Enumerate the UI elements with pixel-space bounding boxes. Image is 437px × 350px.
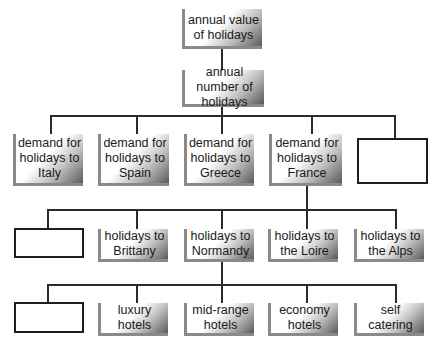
node-label: holidays to the Loire bbox=[271, 229, 338, 259]
node-annual-value: annual value of holidays bbox=[182, 9, 262, 49]
connector-l3-greece bbox=[221, 115, 223, 134]
connector-l3-france bbox=[311, 115, 313, 134]
node-midrange-hotels: mid-range hotels bbox=[184, 303, 254, 336]
node-label: demand for holidays to France bbox=[272, 136, 342, 181]
node-label: demand for holidays to Spain bbox=[101, 136, 169, 181]
connector-l4-loire bbox=[306, 209, 308, 229]
connector-normandy-down bbox=[221, 262, 223, 285]
node-alps: holidays to the Alps bbox=[354, 229, 424, 262]
connector-l3-empty bbox=[394, 115, 396, 138]
node-loire: holidays to the Loire bbox=[268, 229, 338, 262]
node-label: luxury hotels bbox=[101, 303, 168, 333]
node-label: demand for holidays to Italy bbox=[16, 136, 83, 181]
node-demand-italy: demand for holidays to Italy bbox=[13, 134, 83, 186]
connector-l5-midrange bbox=[221, 284, 223, 303]
node-demand-spain: demand for holidays to Spain bbox=[98, 134, 169, 186]
node-self-catering: self catering bbox=[354, 303, 424, 336]
node-label: mid-range hotels bbox=[187, 303, 254, 333]
node-label: holidays to the Alps bbox=[357, 229, 424, 259]
connector-france-down bbox=[306, 186, 308, 210]
node-economy-hotels: economy hotels bbox=[268, 303, 338, 336]
node-normandy: holidays to Normandy bbox=[184, 229, 254, 262]
connector-l4-brittany bbox=[136, 209, 138, 229]
connector-l4-alps bbox=[395, 209, 397, 229]
node-label: annual number of holidays bbox=[185, 65, 264, 110]
node-brittany: holidays to Brittany bbox=[98, 229, 168, 262]
node-demand-greece: demand for holidays to Greece bbox=[184, 134, 254, 186]
node-label: holidays to Brittany bbox=[101, 229, 168, 259]
node-empty-level3 bbox=[357, 138, 428, 184]
node-label: annual value of holidays bbox=[185, 13, 262, 43]
connector-l4-normandy bbox=[221, 209, 223, 229]
node-label: holidays to Normandy bbox=[187, 229, 254, 259]
connector-l3-bar bbox=[50, 115, 396, 117]
node-label: demand for holidays to Greece bbox=[187, 136, 254, 181]
node-annual-number: annual number of holidays bbox=[182, 70, 264, 107]
connector-l5-self bbox=[395, 284, 397, 303]
connector-l3-spain bbox=[136, 115, 138, 134]
connector-l5-economy bbox=[306, 284, 308, 303]
node-empty-level4 bbox=[14, 228, 84, 258]
connector-l5-empty bbox=[47, 284, 49, 303]
connector-l3-italy bbox=[50, 115, 52, 134]
connector-l5-luxury bbox=[136, 284, 138, 303]
node-luxury-hotels: luxury hotels bbox=[98, 303, 168, 336]
node-empty-level5 bbox=[14, 302, 84, 333]
node-label: self catering bbox=[357, 303, 424, 333]
node-demand-france: demand for holidays to France bbox=[269, 134, 342, 186]
node-label: economy hotels bbox=[271, 303, 338, 333]
connector-l4-empty bbox=[47, 209, 49, 229]
